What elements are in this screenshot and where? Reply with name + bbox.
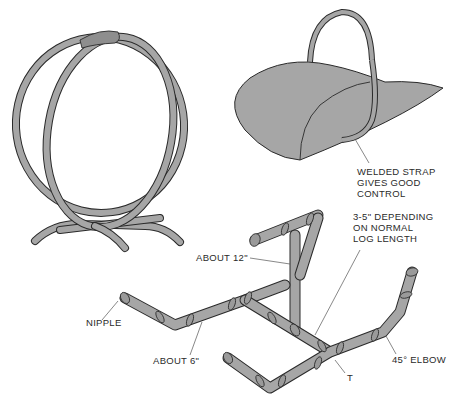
label-tee: T [347, 372, 353, 383]
label-line: WELDED STRAP [357, 166, 436, 177]
label-nipple: NIPPLE [86, 317, 122, 328]
label-line: CONTROL [357, 188, 436, 199]
label-line: LOG LENGTH [353, 233, 433, 244]
label-about-6: ABOUT 6" [153, 355, 199, 366]
label-45-elbow: 45° ELBOW [392, 354, 446, 365]
hoop-log-holder [5, 26, 196, 248]
label-line: GIVES GOOD [357, 177, 436, 188]
label-about-12: ABOUT 12" [196, 252, 248, 263]
label-line: ON NORMAL [353, 222, 433, 233]
label-log-length: 3-5" DEPENDING ON NORMAL LOG LENGTH [353, 211, 433, 244]
label-welded-strap: WELDED STRAP GIVES GOOD CONTROL [357, 166, 436, 199]
log-scoop [235, 12, 443, 163]
label-line: 3-5" DEPENDING [353, 211, 433, 222]
